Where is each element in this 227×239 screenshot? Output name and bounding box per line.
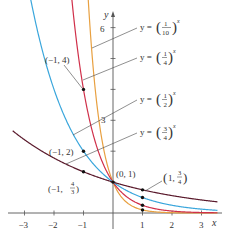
svg-text:x: x <box>176 18 180 24</box>
label-m1-43-den: 3 <box>71 188 74 195</box>
svg-text:3: 3 <box>164 125 168 133</box>
svg-text:1: 1 <box>164 50 168 58</box>
point-marker <box>141 196 144 199</box>
y-axis-arrow-icon <box>111 11 115 17</box>
equation-label-1-10: y =(110)x <box>140 18 180 37</box>
svg-text:(: ( <box>156 91 161 108</box>
svg-text:2: 2 <box>164 101 168 109</box>
leader-1-4 <box>83 58 137 80</box>
equation-label-1-4: y =(14)x <box>140 48 176 67</box>
y-tick-label-6: 6 <box>100 24 105 34</box>
label-1-34: ( 1, 3 4 ) <box>163 169 187 185</box>
svg-text:(: ( <box>156 19 161 36</box>
label-m1-43-close: ) <box>76 184 79 194</box>
svg-text:y =: y = <box>140 94 152 104</box>
x-tick-label: 3 <box>199 220 204 230</box>
label-m1-43: (−1, 4 3 ) <box>48 180 79 195</box>
label-m1-4: (−1, 4) <box>45 55 70 65</box>
svg-text:y =: y = <box>140 22 152 32</box>
exponential-decay-chart: −3−2−1123 y x 6 3 y =(110)xy =(14)xy =(1… <box>0 0 227 239</box>
svg-text:1: 1 <box>164 20 168 28</box>
point-marker <box>82 150 85 153</box>
svg-text:4: 4 <box>164 59 168 67</box>
label-1-34-num: 3 <box>178 169 181 176</box>
point-marker <box>141 204 144 207</box>
y-axis-label: y <box>103 9 109 20</box>
svg-text:y =: y = <box>140 52 152 62</box>
svg-text:4: 4 <box>164 134 168 142</box>
label-1-34-den: 4 <box>178 178 182 185</box>
leader-1-10 <box>92 28 137 48</box>
label-0-1: (0, 1) <box>116 169 136 179</box>
label-1-34-prefix: 1, <box>168 173 175 183</box>
svg-text:x: x <box>172 123 176 129</box>
svg-text:(: ( <box>156 49 161 66</box>
x-tick-label: 2 <box>170 220 175 230</box>
x-tick-label: −2 <box>48 220 58 230</box>
label-1-34-open: ( <box>163 170 167 185</box>
point-marker <box>82 88 85 91</box>
point-marker <box>111 180 114 183</box>
x-tick-label: 1 <box>140 220 145 230</box>
svg-text:x: x <box>172 48 176 54</box>
svg-text:(: ( <box>156 124 161 141</box>
svg-text:y =: y = <box>140 127 152 137</box>
label-m1-43-prefix: (−1, <box>48 184 63 194</box>
curve-3-4 <box>13 131 218 202</box>
y-tick-label-3: 3 <box>101 115 106 125</box>
equation-label-1-2: y =(12)x <box>140 90 176 109</box>
x-axis-label: x <box>211 217 217 228</box>
point-marker <box>141 188 144 191</box>
x-tick-label: −1 <box>78 220 88 230</box>
leader-1-34 <box>145 181 162 191</box>
leader-1-2 <box>73 100 137 135</box>
point-marker <box>82 170 85 173</box>
label-m1-43-num: 4 <box>71 180 75 187</box>
equation-label-3-4: y =(34)x <box>140 123 176 142</box>
leader-m1-4 <box>64 65 82 88</box>
equation-labels: y =(110)xy =(14)xy =(12)xy =(34)x <box>140 18 180 142</box>
label-m1-2: (−1, 2) <box>49 147 74 157</box>
x-tick-label: −3 <box>19 220 29 230</box>
svg-text:1: 1 <box>164 92 168 100</box>
label-1-34-close: ) <box>183 170 187 185</box>
point-marker <box>141 208 144 211</box>
svg-text:10: 10 <box>162 29 170 37</box>
svg-text:x: x <box>172 90 176 96</box>
